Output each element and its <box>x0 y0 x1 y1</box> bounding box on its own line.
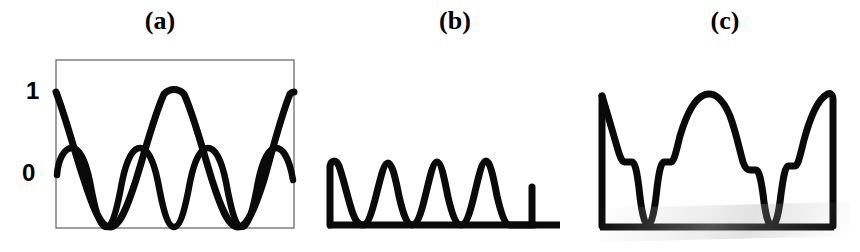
panel-a-title: (a) <box>0 8 320 34</box>
panel-c-hump-trace <box>602 94 833 226</box>
panel-c-title: (c) <box>590 8 860 34</box>
panel-a-slow-trace <box>56 90 294 228</box>
y-axis-tick-label-zero: 0 <box>22 161 35 185</box>
panel-b-plot <box>320 0 590 252</box>
y-axis-tick-label-one: 1 <box>26 79 39 103</box>
panel-a-fast-trace <box>57 148 293 227</box>
panel-c-plot <box>590 0 860 252</box>
panel-b: (b) <box>320 0 590 252</box>
panel-b-title: (b) <box>320 8 590 34</box>
panel-c: (c) <box>590 0 860 252</box>
panel-a: (a) 1 0 <box>0 0 320 252</box>
figure-container: (a) 1 0 (b) (c) <box>0 0 860 252</box>
panel-a-plot <box>0 0 320 252</box>
panel-b-spike-train <box>330 161 534 225</box>
